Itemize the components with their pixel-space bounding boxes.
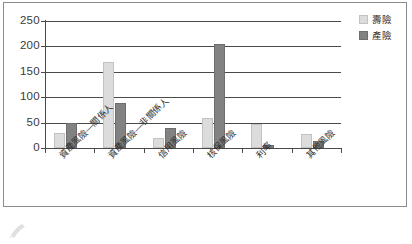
- bar-group: [193, 21, 242, 148]
- y-tick-label: 250: [8, 15, 40, 26]
- bar[interactable]: [202, 118, 213, 148]
- x-tick-mark: [144, 148, 145, 153]
- bar-group: [242, 21, 291, 148]
- chart-frame: 250200150100500 壽險產險 資產風險—關係人資產風險—非關係人信用…: [3, 2, 407, 207]
- bar-group: [292, 21, 341, 148]
- legend-swatch-icon: [359, 31, 368, 40]
- chart-legend: 壽險產險: [359, 13, 407, 45]
- y-axis-tick-labels: 250200150100500: [4, 21, 40, 148]
- scan-artifact: [8, 221, 30, 241]
- x-tick-mark: [292, 148, 293, 153]
- legend-swatch-icon: [359, 15, 368, 24]
- y-tick-label: 0: [8, 142, 40, 153]
- x-tick-mark: [193, 148, 194, 153]
- x-tick-mark: [341, 148, 342, 153]
- x-tick-mark: [242, 148, 243, 153]
- y-tick-label: 150: [8, 66, 40, 77]
- legend-item[interactable]: 產險: [359, 29, 407, 42]
- legend-label: 產險: [372, 31, 392, 41]
- legend-label: 壽險: [372, 15, 392, 25]
- y-tick-label: 200: [8, 40, 40, 51]
- x-tick-mark: [45, 148, 46, 153]
- x-tick-mark: [94, 148, 95, 153]
- bar-group: [144, 21, 193, 148]
- bar[interactable]: [214, 44, 225, 148]
- legend-item[interactable]: 壽險: [359, 13, 407, 26]
- y-tick-label: 50: [8, 117, 40, 128]
- y-tick-label: 100: [8, 91, 40, 102]
